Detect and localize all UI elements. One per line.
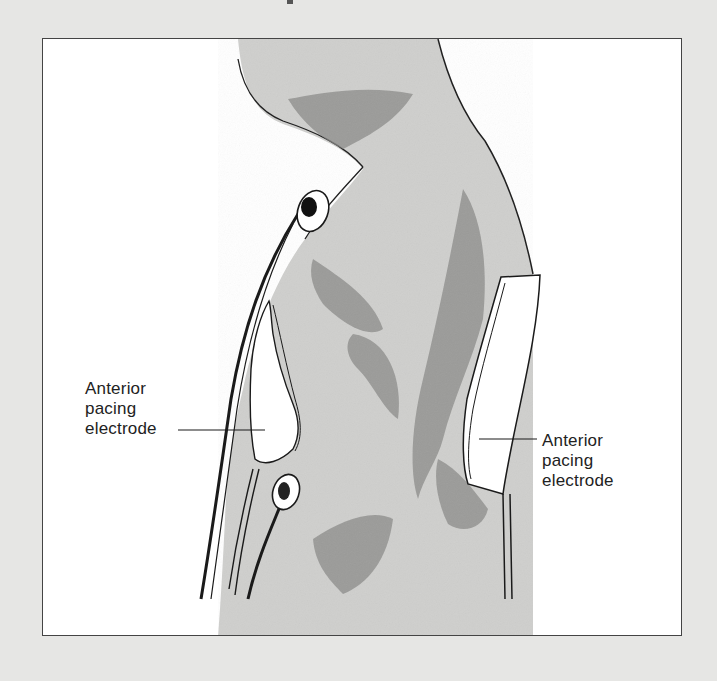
label-line: pacing: [85, 399, 157, 419]
label-line: Anterior: [85, 379, 157, 399]
label-line: electrode: [85, 419, 157, 439]
anatomy-illustration: [43, 39, 682, 636]
figure-frame: Anterior pacing electrode Anterior pacin…: [42, 38, 682, 636]
label-line: electrode: [542, 471, 614, 491]
label-anterior-pacing-electrode-right: Anterior pacing electrode: [542, 431, 614, 491]
top-edge-mark: [287, 0, 293, 4]
label-anterior-pacing-electrode-left: Anterior pacing electrode: [85, 379, 157, 439]
label-line: pacing: [542, 451, 614, 471]
label-line: Anterior: [542, 431, 614, 451]
